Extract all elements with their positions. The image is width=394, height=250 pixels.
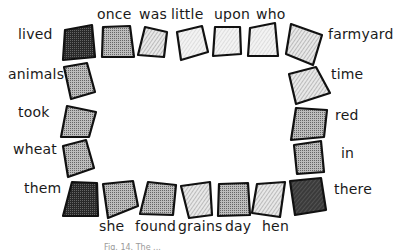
word-was: was [139, 6, 167, 22]
word-in: in [341, 145, 354, 161]
word-time: time [331, 66, 363, 82]
square-was [138, 27, 167, 57]
word-found: found [135, 218, 176, 234]
word-farmyard: farmyard [328, 26, 394, 42]
square-in [294, 141, 324, 174]
word-took: took [18, 104, 50, 120]
word-hen: hen [262, 218, 289, 234]
square-she [103, 181, 138, 218]
square-once [102, 26, 134, 57]
square-upon [213, 27, 241, 56]
square-animals [64, 63, 95, 99]
square-red [291, 108, 327, 140]
square-found [140, 182, 176, 215]
square-them [63, 182, 98, 216]
word-she: she [99, 218, 124, 234]
word-them: them [24, 180, 61, 196]
word-upon: upon [214, 6, 250, 22]
word-lived: lived [18, 26, 53, 42]
square-little [177, 26, 208, 60]
word-little: little [171, 6, 203, 22]
square-who [248, 23, 278, 56]
square-lived [63, 25, 95, 60]
square-there [290, 178, 326, 215]
square-took [61, 106, 96, 137]
word-day: day [225, 218, 251, 234]
square-farmyard [286, 24, 322, 65]
word-once: once [97, 6, 132, 22]
word-animals: animals [8, 66, 64, 82]
word-there: there [334, 181, 372, 197]
square-day [218, 183, 250, 216]
figure-caption: Fig. 14. The ... [104, 243, 161, 250]
word-grains: grains [178, 218, 222, 234]
word-wheat: wheat [13, 141, 57, 157]
square-time [289, 67, 330, 104]
square-hen [252, 182, 285, 217]
square-wheat [63, 140, 94, 177]
word-who: who [256, 6, 286, 22]
word-red: red [335, 107, 359, 123]
square-grains [181, 182, 212, 218]
